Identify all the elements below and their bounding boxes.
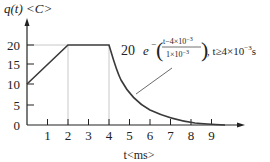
svg-text:1×10−3: 1×10−3 (166, 49, 189, 59)
svg-text:5: 5 (126, 128, 133, 143)
svg-text:9: 9 (208, 128, 215, 143)
svg-text:, t≥4×10−3s: , t≥4×10−3s (207, 44, 256, 57)
annotation-leader (136, 68, 172, 94)
svg-text:6: 6 (147, 128, 154, 143)
svg-text:4: 4 (106, 128, 113, 143)
svg-text:7: 7 (167, 128, 174, 143)
svg-text:8: 8 (188, 128, 195, 143)
svg-text:e: e (143, 43, 149, 58)
x-axis-arrow-icon (237, 123, 245, 128)
svg-text:3: 3 (85, 128, 92, 143)
y-tick-labels: 0 5 10 15 20 (7, 38, 20, 133)
svg-text:20: 20 (7, 38, 20, 53)
x-tick-labels: 1 2 3 4 5 6 7 8 9 (44, 128, 215, 143)
svg-text:20: 20 (121, 43, 135, 58)
y-axis-arrow-icon (25, 18, 30, 26)
chart: 0 5 10 15 20 1 2 3 4 5 6 7 8 9 q(t) <C> … (0, 0, 270, 162)
svg-text:t−4×10−3: t−4×10−3 (163, 36, 193, 46)
svg-text:5: 5 (14, 98, 21, 113)
svg-text:10: 10 (7, 77, 20, 92)
svg-text:15: 15 (7, 57, 20, 72)
svg-text:2: 2 (65, 128, 72, 143)
formula-annotation: 20 e − ( t−4×10−3 1×10−3 ) , t≥4×10−3s (121, 36, 256, 62)
svg-text:1: 1 (44, 128, 51, 143)
x-axis-label: t<ms> (124, 148, 155, 162)
svg-text:0: 0 (14, 118, 21, 133)
y-axis-label: q(t) <C> (4, 1, 52, 16)
y-ticks (27, 45, 34, 105)
